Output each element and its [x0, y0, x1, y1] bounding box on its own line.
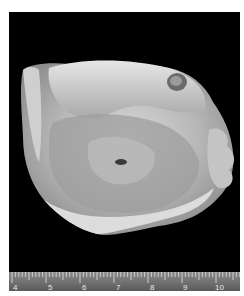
ruler-label: 5: [48, 283, 53, 291]
ruler-label: 6: [82, 283, 87, 291]
ruler-label: 8: [150, 283, 155, 291]
specimen-photo: [9, 12, 240, 274]
ruler-label: 4: [13, 283, 18, 291]
ruler-label: 10: [215, 283, 224, 291]
ruler-ticks: 45678910: [9, 272, 240, 291]
specimen-image: [9, 12, 240, 274]
ruler-label: 9: [183, 283, 188, 291]
measurement-ruler: 45678910: [9, 272, 240, 291]
ruler-label: 7: [116, 283, 121, 291]
